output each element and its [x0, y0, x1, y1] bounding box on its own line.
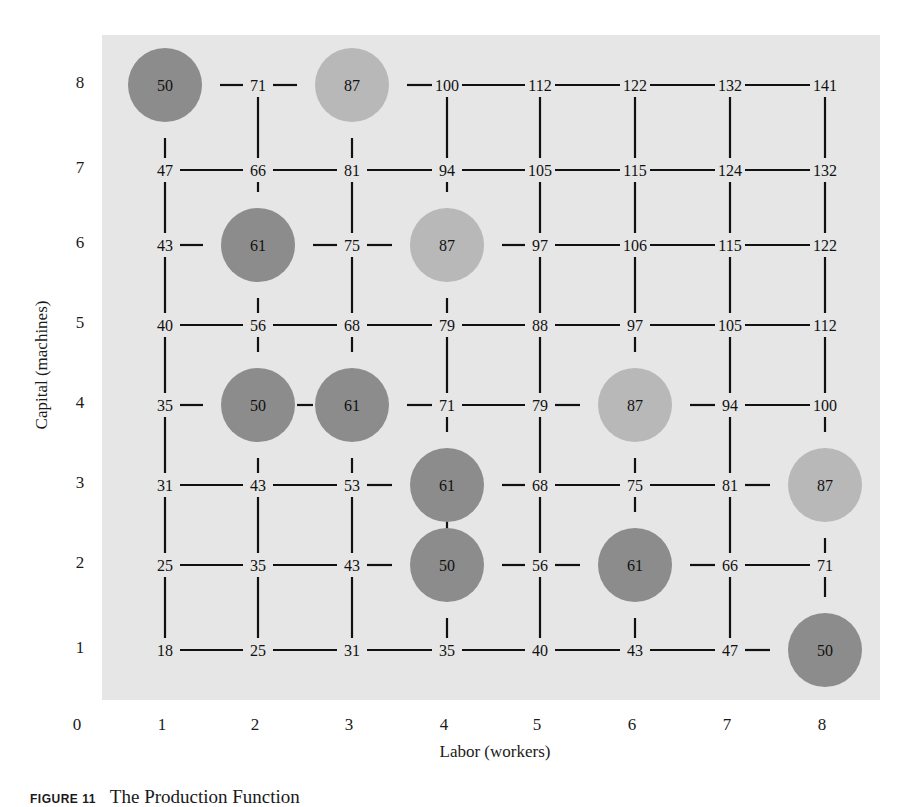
x-tick: 2 — [251, 715, 260, 735]
output-value: 61 — [344, 397, 360, 414]
x-tick: 3 — [345, 715, 354, 735]
output-value: 141 — [813, 77, 837, 94]
output-value: 75 — [344, 237, 360, 254]
x-tick: 7 — [723, 715, 732, 735]
output-value: 47 — [722, 642, 738, 659]
x-tick: 0 — [73, 715, 82, 735]
figure-caption: FIGURE 11The Production Function — [30, 786, 300, 807]
output-value: 50 — [817, 642, 833, 659]
output-value: 115 — [623, 162, 646, 179]
output-value: 132 — [718, 77, 742, 94]
y-tick: 5 — [76, 313, 85, 333]
output-value: 47 — [157, 162, 173, 179]
figure-title: The Production Function — [110, 786, 300, 807]
output-value: 31 — [157, 477, 173, 494]
y-tick: 6 — [76, 233, 85, 253]
output-value: 94 — [722, 397, 738, 414]
output-value: 61 — [439, 477, 455, 494]
output-value: 31 — [344, 642, 360, 659]
y-axis-label: Capital (machines) — [32, 301, 52, 430]
output-value: 66 — [722, 557, 738, 574]
x-tick: 5 — [533, 715, 542, 735]
y-tick: 7 — [76, 158, 85, 178]
output-value: 50 — [250, 397, 266, 414]
output-value: 87 — [344, 77, 360, 94]
output-value: 79 — [532, 397, 548, 414]
output-value: 81 — [344, 162, 360, 179]
figure-number: FIGURE 11 — [30, 792, 96, 806]
output-value: 87 — [817, 477, 833, 494]
x-tick: 8 — [818, 715, 827, 735]
output-value: 87 — [439, 237, 455, 254]
output-value: 25 — [157, 557, 173, 574]
output-value: 56 — [532, 557, 548, 574]
output-value: 43 — [157, 237, 173, 254]
output-value: 97 — [627, 317, 643, 334]
output-value: 25 — [250, 642, 266, 659]
output-value: 53 — [344, 477, 360, 494]
output-value: 132 — [813, 162, 837, 179]
output-value: 115 — [718, 237, 741, 254]
output-value: 35 — [250, 557, 266, 574]
output-value: 56 — [250, 317, 266, 334]
output-value: 66 — [250, 162, 266, 179]
output-value: 50 — [439, 557, 455, 574]
output-value: 112 — [813, 317, 836, 334]
output-value: 124 — [718, 162, 742, 179]
output-value: 61 — [627, 557, 643, 574]
output-value: 105 — [528, 162, 552, 179]
output-value: 94 — [439, 162, 455, 179]
output-value: 122 — [623, 77, 647, 94]
output-value: 68 — [532, 477, 548, 494]
output-value: 61 — [250, 237, 266, 254]
y-tick: 3 — [76, 473, 85, 493]
output-value: 81 — [722, 477, 738, 494]
x-axis-label: Labor (workers) — [440, 742, 551, 762]
output-value: 105 — [718, 317, 742, 334]
output-value: 88 — [532, 317, 548, 334]
output-value: 71 — [817, 557, 833, 574]
output-value: 35 — [157, 397, 173, 414]
output-value: 106 — [623, 237, 647, 254]
output-value: 68 — [344, 317, 360, 334]
output-value: 50 — [157, 77, 173, 94]
y-tick: 8 — [76, 73, 85, 93]
output-value: 43 — [344, 557, 360, 574]
output-value: 71 — [439, 397, 455, 414]
x-tick: 4 — [440, 715, 449, 735]
output-value: 18 — [157, 642, 173, 659]
output-value: 43 — [250, 477, 266, 494]
output-value: 112 — [528, 77, 551, 94]
x-tick: 1 — [158, 715, 167, 735]
output-value: 40 — [157, 317, 173, 334]
output-value: 79 — [439, 317, 455, 334]
output-value: 40 — [532, 642, 548, 659]
output-value: 87 — [627, 397, 643, 414]
output-value: 75 — [627, 477, 643, 494]
output-value: 71 — [250, 77, 266, 94]
output-value: 100 — [435, 77, 459, 94]
output-value: 43 — [627, 642, 643, 659]
x-tick: 6 — [628, 715, 637, 735]
output-value: 35 — [439, 642, 455, 659]
output-value: 97 — [532, 237, 548, 254]
y-tick: 4 — [76, 393, 85, 413]
y-tick: 1 — [76, 638, 85, 658]
output-value: 122 — [813, 237, 837, 254]
y-tick: 2 — [76, 553, 85, 573]
output-value: 100 — [813, 397, 837, 414]
